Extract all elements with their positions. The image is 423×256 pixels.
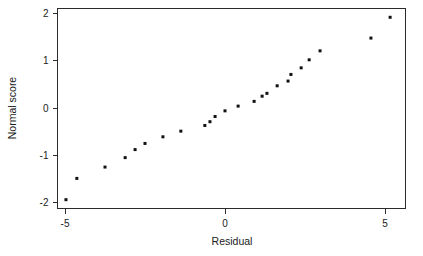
x-tick-label: -5 [61,218,70,229]
data-point [319,49,322,52]
data-point [369,37,372,40]
data-point [237,105,240,108]
data-point [104,166,107,169]
data-point [300,66,303,69]
y-axis-title: Normal score [6,77,18,140]
data-point [203,124,206,127]
data-point [261,95,264,98]
x-axis-tick-labels: -505 [61,218,389,229]
data-point [253,100,256,103]
y-tick-label: -1 [40,150,49,161]
data-point [179,130,182,133]
data-point [224,109,227,112]
y-axis-tick-labels: -2-1012 [40,8,49,208]
x-tick-label: 0 [222,218,228,229]
data-point [287,80,290,83]
plot-frame-rect [58,9,406,209]
plot-canvas: -505 -2-1012 Residual Normal score [0,0,423,256]
y-axis-ticks [53,14,58,203]
scatter-points [64,16,391,201]
data-point [161,135,164,138]
data-point [124,156,127,159]
data-point [308,58,311,61]
y-tick-label: 2 [43,8,49,19]
data-point [144,142,147,145]
data-point [134,148,137,151]
data-point [64,198,67,201]
x-axis-title: Residual [212,235,253,247]
data-point [75,177,78,180]
plot-frame [58,9,406,209]
data-point [389,16,392,19]
x-axis-ticks [65,209,385,214]
data-point [208,120,211,123]
y-tick-label: -2 [40,197,49,208]
data-point [265,92,268,95]
data-point [276,84,279,87]
y-tick-label: 1 [43,55,49,66]
x-tick-label: 5 [382,218,388,229]
y-tick-label: 0 [43,103,49,114]
data-point [289,73,292,76]
normal-probability-plot-figure: -505 -2-1012 Residual Normal score [0,0,423,256]
data-point [214,115,217,118]
